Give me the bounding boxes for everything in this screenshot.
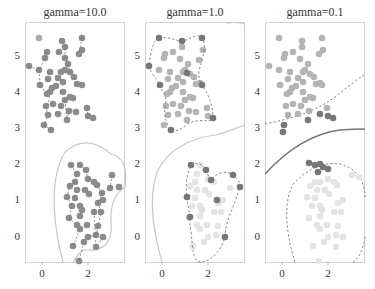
panel-1-title: gamma=10.0 bbox=[5, 5, 145, 20]
ytick-3: 3 bbox=[128, 121, 140, 133]
panel-gamma-0.1 bbox=[265, 22, 365, 263]
panel-2-title: gamma=1.0 bbox=[125, 5, 265, 20]
xtick-2: 2 bbox=[202, 267, 214, 279]
xtick-0: 0 bbox=[156, 267, 168, 279]
xtick-2: 2 bbox=[82, 267, 94, 279]
ytick-4: 4 bbox=[8, 85, 20, 97]
panel-gamma-1 bbox=[145, 22, 245, 263]
ytick-2: 2 bbox=[248, 157, 260, 169]
plot-area bbox=[265, 22, 365, 263]
ytick-4: 4 bbox=[128, 85, 140, 97]
xtick-0: 0 bbox=[36, 267, 48, 279]
xtick-2: 2 bbox=[322, 267, 334, 279]
ytick-3: 3 bbox=[8, 121, 20, 133]
ytick-4: 4 bbox=[248, 85, 260, 97]
ytick-1: 1 bbox=[128, 193, 140, 205]
panel-3-title: gamma=0.1 bbox=[245, 5, 375, 20]
ytick-5: 5 bbox=[8, 49, 20, 61]
ytick-2: 2 bbox=[128, 157, 140, 169]
ytick-1: 1 bbox=[248, 193, 260, 205]
plot-area bbox=[145, 22, 245, 263]
ytick-1: 1 bbox=[8, 193, 20, 205]
ytick-0: 0 bbox=[8, 230, 20, 242]
plot-area bbox=[25, 22, 125, 263]
ytick-0: 0 bbox=[128, 230, 140, 242]
ytick-5: 5 bbox=[248, 49, 260, 61]
ytick-5: 5 bbox=[128, 49, 140, 61]
panel-gamma-10 bbox=[25, 22, 125, 263]
ytick-2: 2 bbox=[8, 157, 20, 169]
xtick-0: 0 bbox=[276, 267, 288, 279]
ytick-3: 3 bbox=[248, 121, 260, 133]
ytick-0: 0 bbox=[248, 230, 260, 242]
